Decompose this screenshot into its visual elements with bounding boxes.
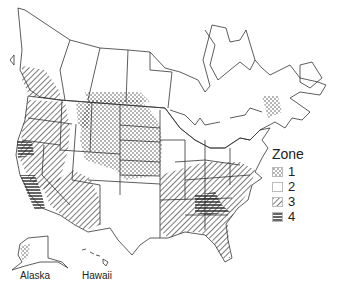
dots-swatch-icon — [272, 167, 283, 177]
legend-label: 4 — [288, 209, 295, 224]
legend-item-zone-1: 1 — [272, 164, 304, 179]
blank-swatch-icon — [272, 182, 283, 192]
legend-label: 2 — [288, 179, 295, 194]
zone1-alaska — [20, 244, 30, 260]
zone1-prairie-canada — [85, 92, 150, 104]
zone1-maritimes — [262, 96, 282, 118]
zone1-west-dots — [76, 102, 90, 130]
hatch-swatch-icon — [272, 197, 283, 207]
legend-label: 1 — [288, 164, 295, 179]
hawaii-label: Hawaii — [82, 270, 112, 281]
alaska-outline — [12, 236, 68, 270]
horizontal-lines-swatch-icon — [272, 212, 283, 222]
zone4-n-california — [17, 140, 34, 158]
legend: Zone 1 2 3 4 — [272, 146, 304, 224]
legend-label: 3 — [288, 194, 295, 209]
alaska-label: Alaska — [20, 270, 50, 281]
hawaii-outline — [82, 249, 108, 266]
zone1-plains — [80, 100, 162, 180]
legend-item-zone-2: 2 — [272, 179, 304, 194]
legend-title: Zone — [272, 146, 304, 162]
zone3-bc — [22, 66, 60, 100]
legend-item-zone-3: 3 — [272, 194, 304, 209]
legend-item-zone-4: 4 — [272, 209, 304, 224]
